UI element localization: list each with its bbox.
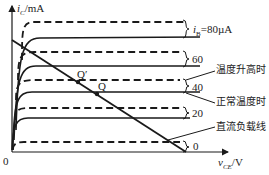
- dc-load-line-annotation: 直流负载线: [216, 122, 266, 132]
- normal-temp-curves: [12, 37, 200, 150]
- normal-temp-annotation: 正常温度时: [216, 97, 266, 107]
- ib-20-label: 20: [192, 108, 203, 119]
- q-point: [95, 92, 99, 96]
- ib-80-label: iB=80µA: [193, 24, 232, 38]
- y-axis-label: iC/mA: [17, 3, 44, 17]
- ib-60-label: 60: [192, 54, 203, 65]
- x-axis-label: vCE/V: [218, 157, 243, 171]
- dc-load-line: [12, 40, 186, 152]
- q-prime-point: [76, 80, 80, 84]
- ib-40-label: 40: [192, 82, 203, 93]
- ib-0-label: 0: [193, 141, 199, 152]
- origin-label: 0: [3, 156, 9, 167]
- q-label: Q: [98, 81, 106, 92]
- q-prime-label: Q′: [77, 69, 87, 80]
- temp-rise-annotation: 温度升高时: [216, 65, 266, 75]
